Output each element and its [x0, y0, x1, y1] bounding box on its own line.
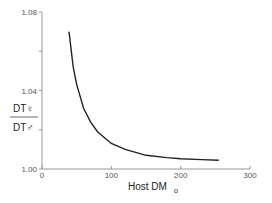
y-tick-label: 1.04	[21, 87, 37, 96]
chart: 1.001.041.08 0100200300 Host DM o DT♀ DT…	[0, 0, 272, 203]
x-tick-label: 300	[243, 171, 257, 180]
x-ticks: 0100200300	[40, 166, 257, 180]
axes	[42, 12, 250, 169]
y-tick-label: 1.00	[21, 165, 37, 174]
y-ticks: 1.001.041.08	[21, 8, 42, 174]
x-axis-label: Host DM o	[128, 181, 178, 194]
x-tick-label: 0	[40, 171, 45, 180]
y-label-numerator: DT♀	[13, 103, 34, 114]
x-axis-label-subscript: o	[174, 187, 178, 194]
data-curve	[69, 32, 219, 161]
y-label-denominator: DT♂	[13, 122, 34, 133]
x-axis-label-text: Host DM	[128, 181, 167, 192]
y-axis-label: DT♀ DT♂	[10, 103, 38, 133]
y-tick-label: 1.08	[21, 8, 37, 17]
x-tick-label: 200	[174, 171, 188, 180]
x-tick-label: 100	[105, 171, 119, 180]
